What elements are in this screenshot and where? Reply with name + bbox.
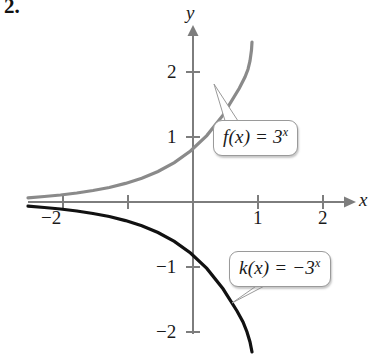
callout-k-text: k(x) = −3x [239,257,321,279]
y-tick-label-pos2: 2 [167,61,177,83]
callout-f-exponent: x [283,125,289,139]
callout-k-function: k(x) = −3x [229,251,331,287]
y-tick-label-neg1: −1 [156,256,176,278]
y-axis-arrowhead [188,25,199,36]
curve-k-exponential [28,206,252,352]
f-callout-tail [214,84,240,124]
x-axis-arrowhead [344,197,356,208]
x-tick-label-pos2: 2 [318,207,328,229]
y-tick-label-pos1: 1 [167,126,177,148]
y-axis-label: y [186,2,194,24]
x-tick-label-neg2: −2 [41,207,61,229]
callout-k-exponent: x [315,256,321,270]
exponential-functions-figure: 2. −2 1 2 2 1 −1 −2 [0,0,385,356]
callout-f-text: f(x) = 3x [223,126,288,148]
graph-canvas [0,0,385,356]
x-tick-label-pos1: 1 [253,207,263,229]
callout-f-expression: f(x) = 3 [223,126,283,147]
y-tick-label-neg2: −2 [156,321,176,343]
callout-k-expression: k(x) = −3 [239,257,315,278]
x-axis-label: x [359,189,367,211]
callout-f-function: f(x) = 3x [213,120,298,156]
